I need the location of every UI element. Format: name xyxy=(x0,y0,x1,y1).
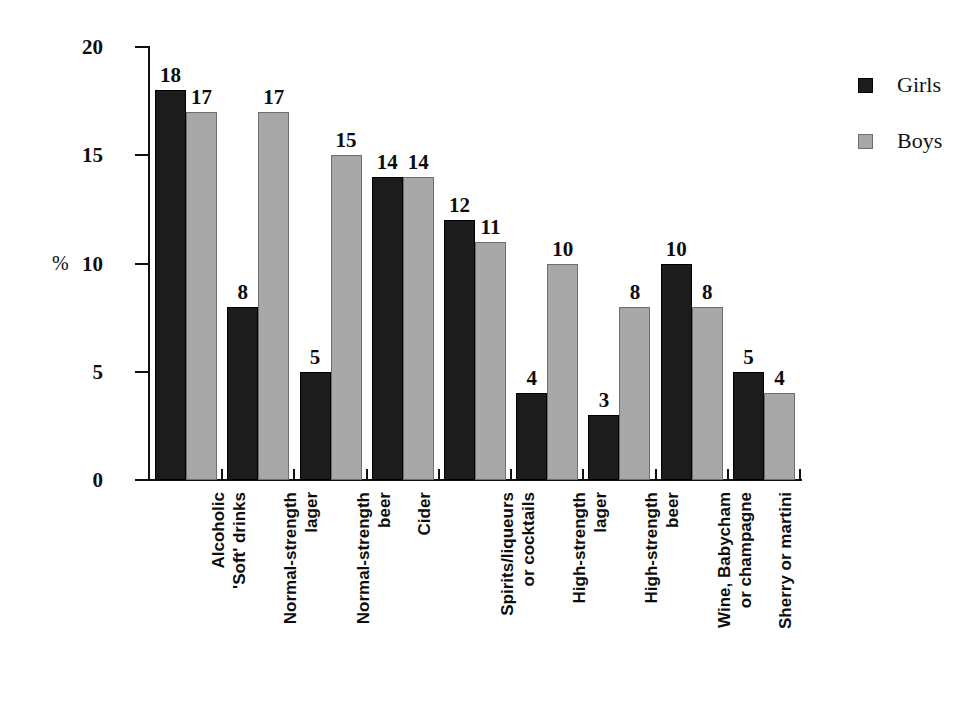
legend-label: Girls xyxy=(897,72,941,98)
bar-boys-8 xyxy=(764,393,795,480)
group-separator-tick xyxy=(510,469,512,480)
y-tick-5 xyxy=(135,371,148,373)
group-separator-tick xyxy=(221,469,223,480)
category-label-1: Normal-strengthlager xyxy=(280,492,322,624)
bar-value-label: 8 xyxy=(238,280,249,305)
bar-value-label: 5 xyxy=(310,345,321,370)
y-tick-15 xyxy=(135,154,148,156)
group-separator-tick xyxy=(293,469,295,480)
bar-girls-1 xyxy=(227,307,258,480)
category-label-6: High-strengthbeer xyxy=(641,492,683,603)
category-label-8: Sherry or martini xyxy=(775,492,796,629)
bar-boys-5 xyxy=(547,264,578,481)
y-tick-label-20: 20 xyxy=(15,35,103,60)
category-label-line: lager xyxy=(590,492,611,603)
group-separator-tick xyxy=(727,469,729,480)
bar-boys-6 xyxy=(619,307,650,480)
category-label-line: lager xyxy=(301,492,322,624)
bar-girls-7 xyxy=(661,264,692,481)
group-separator-tick xyxy=(366,469,368,480)
bar-value-label: 8 xyxy=(630,280,641,305)
bar-value-label: 12 xyxy=(449,193,470,218)
bar-value-label: 10 xyxy=(552,237,573,262)
category-label-line: beer xyxy=(662,492,683,603)
category-label-0: Alcoholic'Soft' drinks xyxy=(208,492,250,589)
category-label-3: Cider xyxy=(414,492,435,535)
y-tick-label-15: 15 xyxy=(15,143,103,168)
category-label-line: Alcoholic xyxy=(208,492,229,589)
bar-value-label: 8 xyxy=(702,280,713,305)
legend-label: Boys xyxy=(897,128,942,154)
bar-girls-5 xyxy=(516,393,547,480)
bar-value-label: 17 xyxy=(263,85,284,110)
bar-girls-4 xyxy=(444,220,475,480)
bar-value-label: 14 xyxy=(377,150,398,175)
category-label-line: Wine, Babycham xyxy=(714,492,735,628)
category-label-line: Sherry or martini xyxy=(775,492,796,629)
category-label-line: Normal-strength xyxy=(280,492,301,624)
group-separator-tick xyxy=(655,469,657,480)
bar-boys-1 xyxy=(258,112,289,480)
bar-girls-3 xyxy=(372,177,403,480)
category-label-line: Normal-strength xyxy=(353,492,374,624)
x-axis-end-tick xyxy=(799,469,801,480)
plot-area: 1817817515141412114103810854 xyxy=(150,47,800,480)
category-label-4: Spirits/liqueursor cocktails xyxy=(497,492,539,616)
y-tick-label-5: 5 xyxy=(15,359,103,384)
legend: GirlsBoys xyxy=(858,72,970,184)
bar-girls-2 xyxy=(300,372,331,480)
bar-value-label: 4 xyxy=(526,366,537,391)
y-tick-label-0: 0 xyxy=(15,468,103,493)
y-tick-10 xyxy=(135,263,148,265)
category-label-line: High-strength xyxy=(569,492,590,603)
y-tick-20 xyxy=(135,46,148,48)
category-label-line: or champagne xyxy=(735,492,756,628)
bar-value-label: 15 xyxy=(336,128,357,153)
group-separator-tick xyxy=(438,469,440,480)
category-label-line: Spirits/liqueurs xyxy=(497,492,518,616)
y-tick-label-10: 10 xyxy=(15,251,103,276)
bar-boys-2 xyxy=(331,155,362,480)
bar-girls-0 xyxy=(155,90,186,480)
bar-girls-6 xyxy=(588,415,619,480)
category-label-line: or cocktails xyxy=(518,492,539,616)
bar-boys-3 xyxy=(403,177,434,480)
category-label-7: Wine, Babychamor champagne xyxy=(714,492,756,628)
category-label-line: High-strength xyxy=(641,492,662,603)
bar-value-label: 18 xyxy=(160,63,181,88)
bar-value-label: 3 xyxy=(599,388,610,413)
bar-value-label: 5 xyxy=(743,345,754,370)
legend-item-girls[interactable]: Girls xyxy=(858,72,970,98)
bar-value-label: 11 xyxy=(481,215,501,240)
bar-chart: % 05101520 1817817515141412114103810854 … xyxy=(0,0,976,710)
group-separator-tick xyxy=(582,469,584,480)
y-tick-0 xyxy=(135,479,148,481)
category-label-5: High-strengthlager xyxy=(569,492,611,603)
category-label-2: Normal-strengthbeer xyxy=(353,492,395,624)
category-label-line: Cider xyxy=(414,492,435,535)
bar-boys-4 xyxy=(475,242,506,480)
bar-value-label: 17 xyxy=(191,85,212,110)
category-label-line: 'Soft' drinks xyxy=(229,492,250,589)
legend-item-boys[interactable]: Boys xyxy=(858,128,970,154)
bar-girls-8 xyxy=(733,372,764,480)
bar-boys-7 xyxy=(692,307,723,480)
legend-swatch-girls xyxy=(858,78,873,93)
bar-value-label: 4 xyxy=(774,366,785,391)
bar-boys-0 xyxy=(186,112,217,480)
bar-value-label: 10 xyxy=(666,237,687,262)
legend-swatch-boys xyxy=(858,134,873,149)
bar-value-label: 14 xyxy=(408,150,429,175)
category-label-line: beer xyxy=(374,492,395,624)
